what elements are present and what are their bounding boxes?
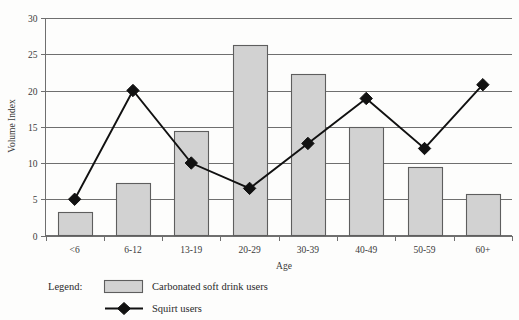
- legend-label: Legend:: [48, 281, 82, 292]
- y-tick-label-25: 25: [28, 50, 38, 60]
- legend: Legend: Carbonated soft drink users Squi…: [48, 281, 268, 315]
- y-axis-ticks: 051015202530: [28, 14, 46, 242]
- legend-entry-squirt-label: Squirt users: [152, 303, 202, 314]
- legend-swatch-bar: [105, 281, 143, 293]
- bar-50-59: [409, 168, 443, 236]
- x-tick-label-40-49: 40-49: [355, 245, 377, 255]
- bar-series-carbonated-soft-drink-users: [59, 46, 501, 236]
- x-tick-label-20-29: 20-29: [239, 245, 261, 255]
- bar-30-39: [292, 75, 326, 236]
- bar-60+: [467, 195, 501, 236]
- x-axis-title: Age: [276, 261, 292, 271]
- x-tick-label-6-12: 6-12: [124, 245, 142, 255]
- bar-6-12: [117, 184, 151, 236]
- y-tick-label-10: 10: [28, 159, 38, 169]
- y-tick-label-15: 15: [28, 123, 38, 133]
- chart-page: 051015202530 Volume Index <66-1213-1920-…: [0, 0, 519, 320]
- y-tick-label-30: 30: [28, 14, 38, 24]
- y-tick-label-5: 5: [33, 195, 38, 205]
- x-tick-label-50-59: 50-59: [413, 245, 435, 255]
- x-tick-label-60+: 60+: [475, 245, 490, 255]
- legend-diamond-icon: [118, 303, 131, 315]
- x-axis-tick-labels: <66-1213-1920-2930-3940-4950-5960+: [70, 245, 491, 255]
- x-tick-label-13-19: 13-19: [180, 245, 202, 255]
- y-tick-label-0: 0: [33, 232, 38, 242]
- y-axis-title: Volume Index: [7, 99, 17, 153]
- bar-20-29: [234, 46, 268, 236]
- marker-diamond-<6: [68, 193, 80, 205]
- bar-<6: [59, 213, 93, 236]
- bar-40-49: [350, 128, 384, 236]
- volume-index-by-age-chart: 051015202530 Volume Index <66-1213-1920-…: [0, 0, 519, 320]
- x-tick-label-30-39: 30-39: [297, 245, 319, 255]
- x-tick-label-<6: <6: [70, 245, 80, 255]
- legend-entry-carbonated-label: Carbonated soft drink users: [152, 281, 268, 292]
- y-tick-label-20: 20: [28, 87, 38, 97]
